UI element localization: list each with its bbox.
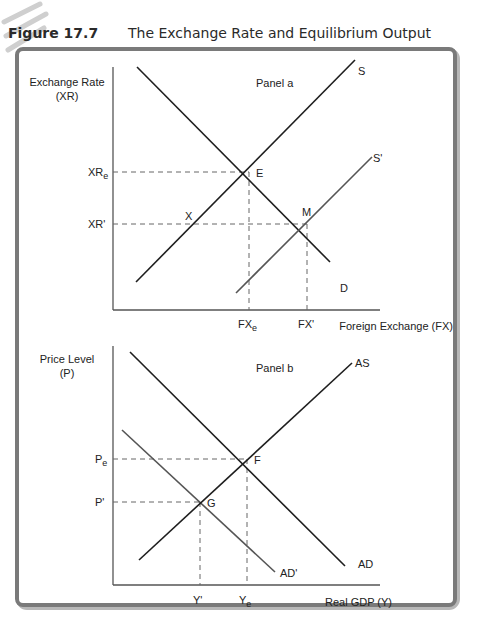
figure-title: The Exchange Rate and Equilibrium Output xyxy=(127,25,432,41)
figure-canvas: Figure 17.7 The Exchange Rate and Equili… xyxy=(0,0,477,633)
panel-b-y-axis-label: Price Level xyxy=(40,353,94,365)
label-as: AS xyxy=(355,357,370,369)
tick-fx-prime: FX' xyxy=(298,318,314,330)
figure-number: Figure 17.7 xyxy=(8,25,98,41)
point-m: M xyxy=(302,206,311,218)
panel-a-y-axis-label: Exchange Rate xyxy=(29,76,104,88)
tick-y-prime: Y' xyxy=(193,594,202,606)
label-ad: AD xyxy=(358,558,373,570)
label-ad-prime: AD' xyxy=(280,567,297,579)
panel-a-x-axis-label: Foreign Exchange (FX) xyxy=(339,320,453,332)
point-f: F xyxy=(254,454,261,466)
tick-p-prime: P' xyxy=(95,496,104,508)
panel-a-label: Panel a xyxy=(256,77,294,89)
panel-b-x-axis-label: Real GDP (Y) xyxy=(325,596,392,608)
point-e: E xyxy=(256,167,263,179)
panel-b-label: Panel b xyxy=(256,362,293,374)
point-g: G xyxy=(207,497,216,509)
panel-b-y-axis-label-unit: (P) xyxy=(60,367,75,379)
label-s-prime: S' xyxy=(373,152,382,164)
panel-a-y-axis-label-unit: (XR) xyxy=(56,90,79,102)
tick-xr-prime: XR' xyxy=(88,218,105,230)
label-s: S xyxy=(358,65,365,77)
point-x: X xyxy=(185,210,193,222)
label-d: D xyxy=(340,282,348,294)
